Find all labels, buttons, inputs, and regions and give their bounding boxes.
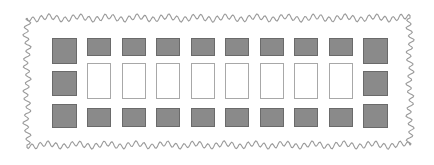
bottom-row-cell-9 [329, 108, 353, 127]
bottom-row-cell-3 [122, 108, 146, 127]
middle-row-cell-3 [122, 63, 146, 99]
top-row-cell-3 [122, 38, 146, 56]
top-row-cell-5 [191, 38, 215, 56]
middle-row-cell-5 [191, 63, 215, 99]
bottom-row-cell-6 [225, 108, 249, 127]
top-row-cell-6 [225, 38, 249, 56]
middle-row-cell-9 [329, 63, 353, 99]
top-row-cell-10 [363, 38, 388, 64]
top-row-cell-8 [294, 38, 318, 56]
top-row-cell-9 [329, 38, 353, 56]
bottom-row-cell-8 [294, 108, 318, 127]
bottom-row-cell-4 [156, 108, 180, 127]
middle-row-cell-4 [156, 63, 180, 99]
bottom-row-cell-1 [52, 104, 77, 128]
top-row-cell-2 [87, 38, 111, 56]
middle-row-cell-2 [87, 63, 111, 99]
bottom-row-cell-7 [260, 108, 284, 127]
top-row-cell-7 [260, 38, 284, 56]
middle-row-cell-6 [225, 63, 249, 99]
diagram-canvas [0, 0, 434, 165]
top-row-cell-1 [52, 38, 77, 64]
middle-row-cell-8 [294, 63, 318, 99]
middle-row-cell-1 [52, 71, 77, 96]
bottom-row-cell-5 [191, 108, 215, 127]
top-row-cell-4 [156, 38, 180, 56]
bottom-row-cell-2 [87, 108, 111, 127]
middle-row-cell-10 [363, 71, 388, 96]
bottom-row-cell-10 [363, 104, 388, 128]
middle-row-cell-7 [260, 63, 284, 99]
